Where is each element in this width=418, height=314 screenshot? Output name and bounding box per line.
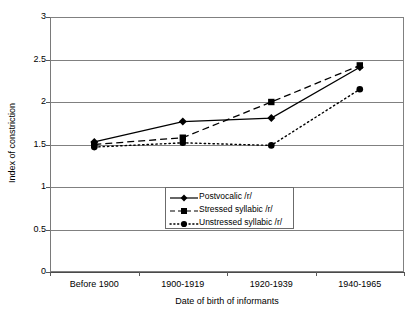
data-point-marker [357,86,364,93]
legend-label-stressed-syllabic: Stressed syllabic /r/ [199,204,273,214]
legend-label-postvocalic: Postvocalic /r/ [199,191,252,201]
series-2 [91,62,363,148]
series-layer [0,0,418,314]
series-line [94,67,360,142]
legend-key-diamond-solid-icon [169,190,199,202]
series-3 [91,86,363,150]
series-1 [90,63,364,146]
chart-legend: Postvocalic /r/ Stressed syllabic /r/ Un… [165,187,294,229]
y-axis-title: Index of constriction [7,83,17,203]
legend-label-unstressed-syllabic: Unstressed syllabic /r/ [199,217,282,227]
legend-item-stressed-syllabic: Stressed syllabic /r/ [169,203,293,215]
legend-key-square-dashed-icon [169,203,199,215]
series-line [94,89,360,147]
data-point-marker [267,114,275,122]
data-point-marker [180,140,187,147]
data-point-marker [91,144,98,151]
chart-container: 00.511.522.53 Before 19001900-19191920-1… [0,0,418,314]
legend-item-postvocalic: Postvocalic /r/ [169,190,293,202]
legend-item-unstressed-syllabic: Unstressed syllabic /r/ [169,216,293,228]
x-axis-title: Date of birth of informants [50,296,404,306]
data-point-marker [268,142,275,149]
data-point-marker [357,62,363,68]
data-point-marker [268,99,274,105]
legend-key-circle-dotted-icon [169,216,199,228]
data-point-marker [179,118,187,126]
